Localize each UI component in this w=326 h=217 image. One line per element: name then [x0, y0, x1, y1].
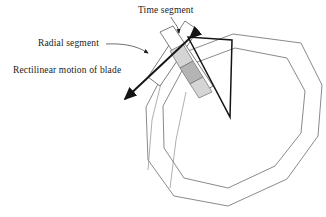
figure-canvas: Time segment Radial segment Rectilinear …	[0, 0, 326, 217]
radial-segment-leader	[106, 44, 148, 53]
time-segment-label: Time segment	[138, 6, 194, 16]
segment-diagram	[0, 0, 326, 217]
guide-line-right	[170, 92, 186, 188]
rectilinear-motion-label: Rectilinear motion of blade	[13, 66, 121, 76]
radial-segment-label: Radial segment	[38, 39, 99, 49]
